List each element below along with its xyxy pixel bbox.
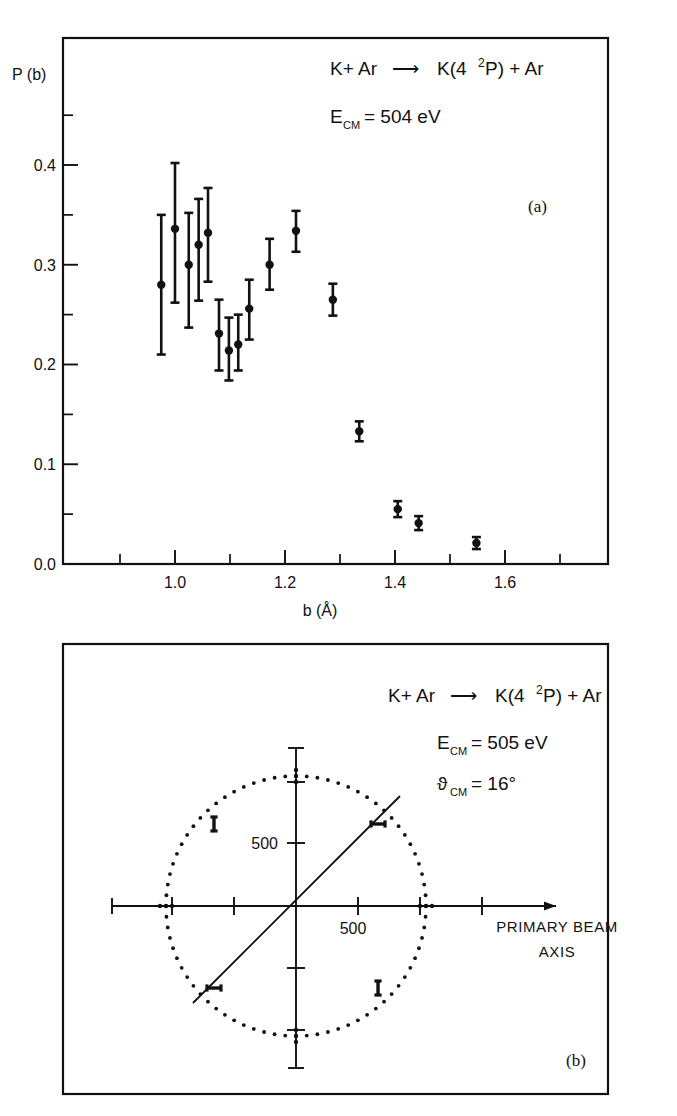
circle-dot xyxy=(397,824,401,828)
panel-b-y-tick-label: 500 xyxy=(251,835,278,852)
data-point-with-errorbar xyxy=(265,239,274,290)
circle-dot xyxy=(336,1027,340,1031)
panel-b-frame xyxy=(63,644,608,1094)
panel-b-reaction-pre: K+ Ar xyxy=(388,685,436,706)
panel-a-reaction-arrow: ⟶ xyxy=(392,58,419,79)
circle-dot xyxy=(166,883,170,887)
circle-dot xyxy=(382,1000,386,1004)
circle-dot xyxy=(175,956,179,960)
circle-dot xyxy=(242,785,246,789)
panel-b-y-axis xyxy=(287,748,305,1068)
circle-dot xyxy=(185,833,189,837)
circle-dot xyxy=(273,776,277,780)
panel-b-energy-value: = 505 eV xyxy=(471,732,548,753)
data-point-with-errorbar xyxy=(292,211,301,252)
panel-a-label: (a) xyxy=(528,197,547,216)
circle-dot xyxy=(185,975,189,979)
panel-a-y-axis-title: P (b) xyxy=(12,66,46,83)
circle-dot xyxy=(390,816,394,820)
panel-b-angle-value: = 16° xyxy=(471,773,516,794)
circle-dot xyxy=(180,842,184,846)
data-point-with-errorbar xyxy=(215,300,224,371)
panel-a: 0.0 0.1 0.2 0.3 0.4 1.0 1.2 1.4 xyxy=(12,38,608,619)
panel-a-ytick-2: 0.2 xyxy=(34,356,56,373)
circle-dot xyxy=(374,1007,378,1011)
data-point-with-errorbar xyxy=(472,537,481,549)
circle-dot xyxy=(422,883,426,887)
data-point-with-errorbar xyxy=(224,318,233,381)
circle-dot xyxy=(214,802,218,806)
data-point-with-errorbar xyxy=(355,421,364,441)
data-point-with-errorbar xyxy=(245,280,254,340)
panel-a-reaction-annotation: K+ Ar ⟶ K(4 2 P) + Ar xyxy=(330,56,544,79)
polar-error-marker xyxy=(207,984,221,991)
data-point-with-errorbar xyxy=(204,188,213,282)
panel-b-reaction-annotation: K+ Ar ⟶ K(4 2 P) + Ar xyxy=(388,683,602,706)
axis-crossing-dot xyxy=(294,780,298,784)
panel-a-xtick-3: 1.6 xyxy=(494,574,516,591)
panel-a-reaction-post-a: K(4 xyxy=(437,58,467,79)
circle-dot xyxy=(168,936,172,940)
circle-dot xyxy=(420,936,424,940)
circle-dot xyxy=(175,852,179,856)
circle-dot xyxy=(356,1018,360,1022)
circle-dot xyxy=(422,926,426,930)
circle-dot xyxy=(336,781,340,785)
panel-b-angle-symbol: ϑ xyxy=(437,773,448,794)
circle-dot xyxy=(223,795,227,799)
axis-crossing-dot xyxy=(164,904,168,908)
circle-dot xyxy=(232,790,236,794)
circle-dot xyxy=(403,833,407,837)
panel-a-data-points xyxy=(157,163,481,549)
axis-crossing-dot xyxy=(294,1040,298,1044)
panel-b-reaction-arrow: ⟶ xyxy=(450,685,477,706)
circle-dot xyxy=(316,1032,320,1036)
data-point-with-errorbar xyxy=(393,501,402,517)
circle-dot xyxy=(424,915,428,919)
panel-b-energy-symbol: E xyxy=(437,732,450,753)
circle-dot xyxy=(420,872,424,876)
circle-dot xyxy=(252,1027,256,1031)
circle-dot xyxy=(346,785,350,789)
circle-dot xyxy=(206,808,210,812)
circle-dot xyxy=(390,992,394,996)
circle-dot xyxy=(168,872,172,876)
circle-dot xyxy=(283,1034,287,1038)
data-point-with-errorbar xyxy=(184,213,193,328)
panel-a-reaction-pre: K+ Ar xyxy=(330,58,378,79)
circle-dot xyxy=(171,862,175,866)
circle-dot xyxy=(171,946,175,950)
circle-dot xyxy=(192,824,196,828)
circle-dot xyxy=(316,776,320,780)
panel-b-beam-label-line2: AXIS xyxy=(539,943,576,960)
panel-b-reaction-superscript: 2 xyxy=(536,683,543,697)
axis-crossing-dot xyxy=(294,774,298,778)
panel-a-x-ticks xyxy=(120,550,560,564)
circle-dot xyxy=(223,1013,227,1017)
axis-crossing-dot xyxy=(424,904,428,908)
circle-dot xyxy=(305,1034,309,1038)
circle-dot xyxy=(262,778,266,782)
circle-dot xyxy=(305,775,309,779)
circle-dot xyxy=(397,984,401,988)
polar-error-marker xyxy=(210,817,217,831)
axis-crossing-dot xyxy=(430,904,434,908)
data-point-with-errorbar xyxy=(414,516,423,530)
panel-b-energy-annotation: E CM = 505 eV xyxy=(437,732,548,757)
circle-dot xyxy=(408,842,412,846)
panel-b-angle-subscript: CM xyxy=(450,786,467,798)
circle-dot xyxy=(165,915,169,919)
circle-dot xyxy=(214,1007,218,1011)
circle-dot xyxy=(403,975,407,979)
circle-dot xyxy=(365,1013,369,1017)
circle-dot xyxy=(232,1018,236,1022)
circle-dot xyxy=(262,1030,266,1034)
circle-dot xyxy=(408,966,412,970)
figure-container: 0.0 0.1 0.2 0.3 0.4 1.0 1.2 1.4 xyxy=(0,0,677,1116)
panel-b-x-tick-label: 500 xyxy=(340,920,367,937)
circle-dot xyxy=(413,852,417,856)
panel-a-ytick-1: 0.1 xyxy=(34,456,56,473)
data-point-with-errorbar xyxy=(234,315,243,371)
axis-crossing-dot xyxy=(418,904,422,908)
panel-a-reaction-post-b: P) + Ar xyxy=(485,58,544,79)
